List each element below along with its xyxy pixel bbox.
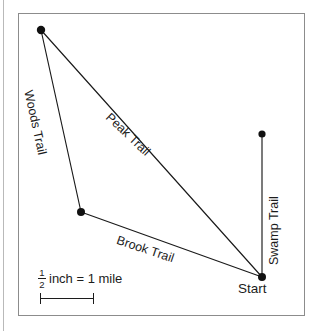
peak-vertex-dot	[37, 26, 45, 34]
junction-vertex-dot	[77, 208, 85, 216]
scale-bar-tick-left	[40, 293, 41, 304]
swamp-end-vertex-dot	[258, 130, 265, 137]
brook-trail-line	[81, 212, 262, 277]
peak-trail-line	[41, 30, 262, 277]
start-point-label: Start	[238, 282, 267, 296]
scale-units-text: inch = 1 mile	[49, 272, 122, 285]
trail-map-figure: Woods Trail Peak Trail Brook Trail Swamp…	[0, 0, 320, 331]
scale-legend: 1 2 inch = 1 mile	[38, 270, 122, 304]
fraction-numerator: 1	[38, 268, 45, 278]
one-half-fraction: 1 2	[38, 268, 46, 289]
swamp-trail-label: Swamp Trail	[268, 196, 281, 265]
scale-bar-rule	[40, 298, 94, 299]
scale-bar	[40, 293, 94, 304]
scale-text-row: 1 2 inch = 1 mile	[38, 270, 122, 287]
fraction-denominator: 2	[38, 280, 45, 290]
start-vertex-dot	[258, 273, 266, 281]
woods-trail-line	[41, 30, 81, 212]
scale-bar-tick-right	[93, 293, 94, 304]
